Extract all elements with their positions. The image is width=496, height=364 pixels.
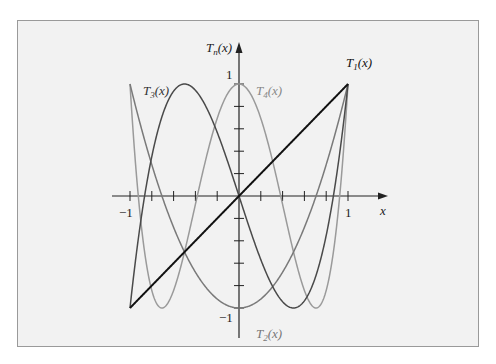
series-label-t3: T3(x)	[143, 83, 169, 100]
series-label-t2: T2(x)	[256, 326, 282, 343]
y-axis-arrow-icon	[236, 42, 243, 53]
y-tick-label-neg1: −1	[219, 310, 233, 326]
y-tick-label-1: 1	[226, 67, 233, 83]
chebyshev-plot	[0, 0, 496, 364]
x-tick-label-neg1: −1	[119, 205, 133, 221]
x-axis-arrow-icon	[378, 193, 388, 200]
series-label-t4: T4(x)	[256, 83, 282, 100]
x-tick-label-1: 1	[345, 205, 352, 221]
x-axis-label: x	[380, 203, 386, 219]
series-label-t1: T1(x)	[346, 55, 372, 72]
y-axis-label: Tn(x)	[206, 40, 232, 57]
